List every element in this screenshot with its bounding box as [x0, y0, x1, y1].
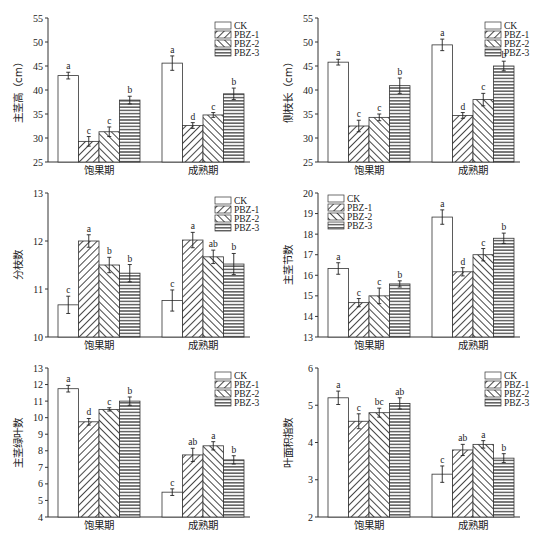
x-category-label: 饱果期	[354, 519, 384, 531]
significance-letter: d	[460, 102, 465, 112]
significance-letter: b	[397, 67, 402, 77]
y-tick-label: 45	[303, 61, 313, 72]
significance-letter: b	[501, 443, 506, 453]
legend-label: PBZ-3	[234, 223, 260, 233]
significance-letter: a	[170, 45, 175, 55]
bar-pbz-3	[224, 94, 245, 162]
significance-letter: c	[211, 102, 215, 112]
significance-letter: c	[170, 279, 174, 289]
significance-letter: a	[87, 224, 92, 234]
y-tick-label: 11	[33, 396, 43, 407]
legend-swatch	[485, 49, 501, 56]
bar-ck	[328, 398, 349, 517]
bar-pbz-1	[183, 126, 204, 162]
y-tick-label: 13	[33, 188, 43, 199]
legend: CKPBZ-1PBZ-2PBZ-3	[485, 371, 530, 408]
legend-swatch	[215, 372, 231, 379]
y-tick-label: 25	[33, 157, 43, 168]
y-tick-label: 4	[38, 512, 43, 523]
y-tick-label: 35	[33, 109, 43, 120]
significance-letter: a	[66, 61, 71, 71]
legend: CKPBZ-1PBZ-2PBZ-3	[215, 21, 260, 58]
bar-chart: 25303540455055主茎高（cm）accb饱果期adcb成熟期CKPBZ…	[0, 0, 269, 178]
bar-pbz-2	[203, 446, 224, 517]
legend-swatch	[485, 22, 501, 29]
x-category-label: 成熟期	[188, 519, 218, 531]
legend-swatch	[215, 215, 231, 222]
legend-swatch	[215, 390, 231, 397]
bar-pbz-2	[369, 413, 390, 517]
y-axis-label: 主茎高（cm）	[12, 57, 24, 123]
significance-letter: c	[357, 288, 361, 298]
bar-pbz-1	[453, 115, 474, 162]
bar-ck	[162, 63, 183, 162]
significance-letter: ab	[395, 387, 404, 397]
legend-swatch	[215, 40, 231, 47]
y-tick-label: 4	[308, 437, 313, 448]
legend-label: PBZ-3	[234, 48, 260, 58]
y-tick-label: 55	[33, 13, 43, 24]
legend-swatch	[485, 390, 501, 397]
bar-pbz-1	[183, 240, 204, 337]
legend-label: PBZ-3	[504, 48, 530, 58]
legend: CKPBZ-1PBZ-2PBZ-3	[328, 194, 373, 231]
significance-letter: a	[440, 28, 445, 38]
bar-pbz-3	[390, 403, 411, 517]
legend-label: PBZ-3	[347, 221, 373, 231]
bar-chart: 25303540455055侧枝长（cm）accb饱果期adcb成熟期CKPBZ…	[270, 0, 539, 178]
y-tick-label: 6	[308, 363, 313, 374]
significance-letter: c	[377, 277, 381, 287]
y-tick-label: 5	[38, 495, 43, 506]
y-axis-label: 主茎绿叶数	[12, 417, 24, 468]
significance-letter: a	[336, 380, 341, 390]
significance-letter: a	[66, 374, 71, 384]
y-tick-label: 2	[308, 512, 313, 523]
significance-letter: bc	[375, 397, 384, 407]
y-tick-label: 10	[33, 412, 43, 423]
bar-pbz-1	[349, 303, 370, 337]
bar-pbz-3	[120, 100, 141, 162]
bar-pbz-2	[203, 257, 224, 337]
bar-pbz-3	[390, 284, 411, 337]
bar-pbz-2	[99, 265, 120, 337]
y-tick-label: 40	[33, 85, 43, 96]
significance-letter: c	[170, 478, 174, 488]
y-tick-label: 40	[303, 85, 313, 96]
y-axis-label: 主茎节数	[282, 244, 294, 285]
bar-pbz-2	[473, 444, 494, 517]
bar-ck	[432, 45, 453, 162]
significance-letter: a	[336, 252, 341, 262]
significance-letter: a	[191, 221, 196, 231]
bar-pbz-2	[203, 115, 224, 162]
significance-letter: ab	[209, 239, 218, 249]
panel-lateral-branch-length: 25303540455055侧枝长（cm）accb饱果期adcb成熟期CKPBZ…	[270, 0, 539, 178]
legend: CKPBZ-1PBZ-2PBZ-3	[215, 371, 260, 408]
significance-letter: ab	[458, 433, 467, 443]
bar-pbz-3	[120, 273, 141, 337]
bar-ck	[58, 76, 79, 162]
y-tick-label: 18	[303, 229, 313, 240]
bar-ck	[58, 389, 79, 517]
significance-letter: a	[336, 48, 341, 58]
y-tick-label: 7	[38, 462, 43, 473]
legend-swatch	[215, 224, 231, 231]
y-tick-label: 12	[33, 236, 43, 247]
bar-pbz-3	[494, 458, 515, 517]
y-tick-label: 50	[33, 37, 43, 48]
legend-swatch	[485, 31, 501, 38]
significance-letter: b	[127, 386, 132, 396]
y-tick-label: 20	[303, 188, 313, 199]
bar-chart: 23456叶面积指数acbcab饱果期cabab成熟期CKPBZ-1PBZ-2P…	[270, 350, 539, 533]
bar-chart: 1314151617181920主茎节数accb饱果期adcb成熟期CKPBZ-…	[270, 175, 539, 353]
bar-chart: 10111213分枝数cabb饱果期caabb成熟期CKPBZ-1PBZ-2PB…	[0, 175, 269, 353]
panel-leaf-area-index: 23456叶面积指数acbcab饱果期cabab成熟期CKPBZ-1PBZ-2P…	[270, 350, 539, 528]
x-category-label: 饱果期	[84, 519, 114, 531]
y-tick-label: 6	[38, 478, 43, 489]
legend-swatch	[328, 213, 344, 220]
legend-label: PBZ-3	[234, 398, 260, 408]
panel-main-stem-height: 25303540455055主茎高（cm）accb饱果期adcb成熟期CKPBZ…	[0, 0, 269, 178]
significance-letter: a	[211, 431, 216, 441]
y-axis-label: 侧枝长（cm）	[282, 57, 294, 123]
legend-swatch	[328, 222, 344, 229]
y-tick-label: 11	[33, 284, 43, 295]
